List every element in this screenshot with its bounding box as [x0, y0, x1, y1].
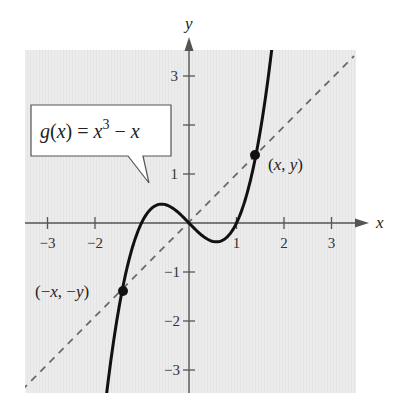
y-tick-label: 1 [171, 166, 179, 182]
x-tick-label: 1 [233, 235, 241, 251]
x-tick-label: 2 [280, 235, 288, 251]
x-tick-label: 3 [328, 235, 336, 251]
x-axis-label: x [375, 213, 384, 232]
y-tick-label: −3 [164, 362, 180, 378]
x-tick-label: −2 [87, 235, 103, 251]
y-axis-arrow-icon [185, 37, 194, 51]
point-neg-x-neg-y [118, 286, 128, 296]
point-label-x-y: (x, y) [268, 155, 303, 174]
x-axis-arrow-icon [355, 219, 369, 228]
point-label-neg-x-neg-y: (−x, −y) [35, 282, 89, 301]
callout-formula: g(x) = x3 − x [40, 117, 140, 143]
y-tick-label: −2 [164, 313, 180, 329]
chart-canvas: −3 −2 1 2 3 3 1 −1 −2 −3 x y g(x) = x3 −… [0, 0, 399, 411]
point-x-y [250, 150, 260, 160]
x-tick-label: −3 [40, 235, 56, 251]
y-tick-label: −1 [164, 264, 180, 280]
y-tick-label: 3 [171, 68, 179, 84]
y-axis-label: y [183, 14, 193, 33]
